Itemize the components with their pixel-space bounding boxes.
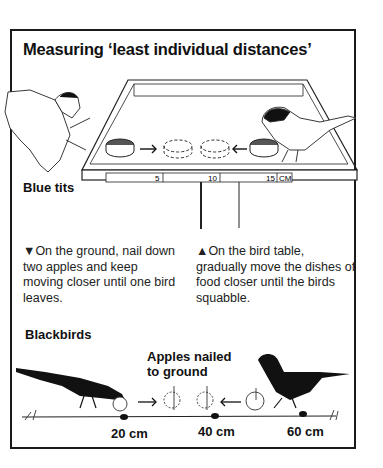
food-dish-left: [106, 139, 134, 157]
distance-20cm: 20 cm: [111, 426, 148, 441]
ruler-tick-5: 5: [155, 174, 160, 183]
ruler-tick-10: 10: [208, 174, 217, 183]
instruction-table: ▲On the bird table, gradually move the d…: [196, 244, 356, 306]
blackbirds-label: Blackbirds: [25, 327, 91, 342]
down-triangle-icon: ▼: [23, 244, 35, 258]
food-dish-right: [250, 139, 278, 157]
illustration: 5 10 15 CM: [0, 0, 383, 468]
blackbird-right: [258, 354, 350, 408]
up-triangle-icon: ▲: [196, 244, 208, 258]
apple-arrow-right-icon: [138, 398, 156, 406]
arrow-right-icon: [140, 145, 156, 153]
distance-60cm: 60 cm: [287, 424, 324, 439]
blackbird-left: [16, 368, 126, 408]
instruction-ground: ▼On the ground, nail down two apples and…: [23, 244, 183, 306]
apples-label: Apples nailed to ground: [147, 349, 232, 379]
dish-position-dashed: [164, 140, 229, 158]
apple-arrow-left-icon: [221, 398, 241, 406]
blue-tit-flying: [5, 90, 90, 172]
ground-line: [22, 410, 338, 420]
blue-tits-label: Blue tits: [23, 180, 74, 195]
apples: [113, 386, 264, 411]
arrow-left-icon: [233, 145, 247, 153]
distance-40cm: 40 cm: [198, 424, 235, 439]
ruler-unit: CM: [279, 174, 292, 183]
ruler-tick-15: 15: [266, 174, 275, 183]
ruler: 5 10 15 CM: [106, 173, 292, 183]
